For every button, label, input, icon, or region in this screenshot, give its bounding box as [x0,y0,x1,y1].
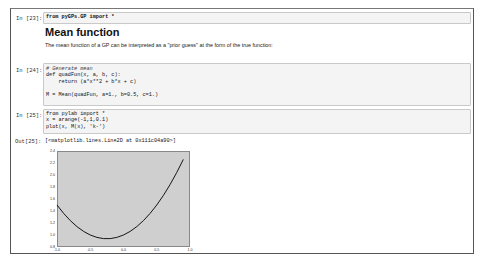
code-block: # Generate mean def quadFun(x, a, b, c):… [46,66,158,98]
markdown-heading: Mean function [45,26,120,38]
markdown-paragraph: The mean function of a GP can be interpr… [45,42,273,48]
code-block: from pylab import * x = arange(-1,1,0.1)… [46,111,108,130]
code-line: return (a*x**2 + b*x + c) [46,79,136,85]
y-tick-label: 1.2 [45,221,55,225]
x-tick-label: 0.5 [150,248,164,252]
line-series [57,151,190,247]
y-tick-label: 1.6 [45,197,55,201]
code-line: M = Mean(quadFun, a=1., b=0.5, c=1.) [46,92,158,98]
input-prompt: In [24]: [16,67,42,74]
input-prompt: In [25]: [16,112,42,119]
code-text: from pyGPs.GP import * [46,14,115,20]
code-line: x = arange(-1,1,0.1) [46,117,108,123]
code-line: plot(x, M(x), 'k-') [46,124,105,130]
code-line: from pyGPs.GP import * [46,14,115,20]
x-tick-label: -0.5 [83,248,97,252]
x-tick-label: -1.0 [50,248,64,252]
output-text: [<matplotlib.lines.Line2D at 0x111c04a90… [45,138,176,144]
code-comment: # Generate mean [46,66,93,72]
y-tick-label: 1.8 [45,185,55,189]
code-line: def quadFun(x, a, b, c): [46,72,121,78]
code-line: from pylab import * [46,111,105,117]
input-prompt: In [23]: [16,15,42,22]
y-tick-label: 2.2 [45,161,55,165]
output-prompt: Out[25]: [15,138,41,145]
y-tick-label: 1.4 [45,209,55,213]
y-tick-label: 1.0 [45,233,55,237]
y-tick-label: 2.0 [45,173,55,177]
x-tick-label: 1.0 [183,248,197,252]
y-tick-label: 2.4 [45,149,55,153]
x-tick-label: 0.0 [117,248,131,252]
